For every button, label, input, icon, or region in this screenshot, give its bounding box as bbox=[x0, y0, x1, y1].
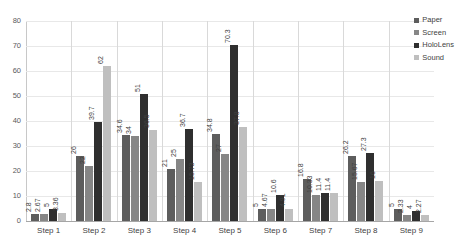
bar[interactable] bbox=[131, 136, 139, 221]
bar[interactable] bbox=[330, 193, 338, 222]
bar[interactable] bbox=[267, 209, 275, 221]
bar-wrapper: 36.7 bbox=[185, 21, 193, 221]
bar-value-label: 51 bbox=[133, 84, 140, 92]
bar[interactable] bbox=[194, 182, 202, 221]
bar-value-label: 10.6 bbox=[269, 179, 276, 193]
y-tick-label: 80 bbox=[0, 17, 21, 25]
bar-wrapper: 16 bbox=[375, 21, 383, 221]
legend-item-sound[interactable]: Sound bbox=[414, 54, 454, 62]
y-tick-label: 0 bbox=[0, 217, 21, 225]
bar-value-label: 62 bbox=[97, 56, 104, 64]
bar[interactable] bbox=[403, 215, 411, 221]
legend-label: Sound bbox=[422, 54, 444, 62]
bar-group: 2.82.6753.36 bbox=[26, 21, 71, 221]
plot-area: 2.82.6753.36262239.76234.6345136.5212536… bbox=[26, 21, 434, 221]
bar-wrapper: 2.33 bbox=[403, 21, 411, 221]
bar-wrapper: 10.6 bbox=[276, 21, 284, 221]
bar[interactable] bbox=[230, 45, 238, 221]
x-tick-label: Step 7 bbox=[298, 226, 343, 236]
bar[interactable] bbox=[221, 154, 229, 222]
x-tick-label: Step 8 bbox=[343, 226, 388, 236]
bar[interactable] bbox=[285, 209, 293, 221]
bar-wrapper: 34 bbox=[131, 21, 139, 221]
bar-value-label: 39.7 bbox=[88, 106, 95, 120]
bar-value-label: 27 bbox=[215, 144, 222, 152]
bar-wrapper: 22 bbox=[85, 21, 93, 221]
bar-wrapper: 26.2 bbox=[348, 21, 356, 221]
legend-item-screen[interactable]: Screen bbox=[414, 29, 454, 37]
legend-swatch-icon bbox=[414, 30, 419, 35]
bar-group: 262239.762 bbox=[71, 21, 116, 221]
bar-wrapper: 62 bbox=[103, 21, 111, 221]
legend-item-hololens[interactable]: HoloLens bbox=[414, 41, 454, 49]
bar[interactable] bbox=[122, 135, 130, 222]
bar-value-label: 34 bbox=[124, 126, 131, 134]
bar[interactable] bbox=[375, 181, 383, 221]
x-tick-label: Step 3 bbox=[117, 226, 162, 236]
bar-value-label: 2.33 bbox=[396, 200, 403, 214]
bar-value-label: 4 bbox=[405, 205, 412, 209]
bar[interactable] bbox=[312, 195, 320, 221]
bar-value-label: 70.3 bbox=[224, 30, 231, 44]
y-tick-label: 60 bbox=[0, 67, 21, 75]
bar-wrapper: 36.5 bbox=[149, 21, 157, 221]
bar-value-label: 36.7 bbox=[179, 114, 186, 128]
x-tick-label: Step 1 bbox=[26, 226, 71, 236]
legend-swatch-icon bbox=[414, 43, 419, 48]
bar[interactable] bbox=[31, 214, 39, 221]
bar-wrapper: 11.4 bbox=[330, 21, 338, 221]
bar-value-label: 36.5 bbox=[142, 114, 149, 128]
x-tick-label: Step 5 bbox=[207, 226, 252, 236]
legend-label: Paper bbox=[422, 16, 442, 24]
bar-value-label: 11.4 bbox=[324, 177, 331, 190]
bar[interactable] bbox=[40, 214, 48, 221]
bar-wrapper: 15.67 bbox=[357, 21, 365, 221]
bar-wrapper: 5 bbox=[49, 21, 57, 221]
bar[interactable] bbox=[149, 130, 157, 221]
y-tick-label: 10 bbox=[0, 192, 21, 200]
y-tick-label: 50 bbox=[0, 92, 21, 100]
bar-value-label: 37.8 bbox=[233, 111, 240, 125]
bar-value-label: 2.8 bbox=[25, 202, 32, 212]
bar-value-label: 5 bbox=[43, 203, 50, 207]
bar-wrapper: 27 bbox=[221, 21, 229, 221]
legend: PaperScreenHoloLensSound bbox=[414, 16, 454, 62]
bar-wrapper: 2.67 bbox=[40, 21, 48, 221]
legend-swatch-icon bbox=[414, 55, 419, 60]
bar-wrapper: 34.6 bbox=[122, 21, 130, 221]
bar-wrapper: 5 bbox=[258, 21, 266, 221]
bar[interactable] bbox=[321, 193, 329, 222]
bar[interactable] bbox=[258, 209, 266, 222]
bar-wrapper: 11.4 bbox=[321, 21, 329, 221]
bar[interactable] bbox=[85, 166, 93, 221]
bar-chart: 80706050403020100 2.82.6753.36262239.762… bbox=[0, 0, 460, 252]
bar[interactable] bbox=[140, 94, 148, 222]
y-tick-label: 20 bbox=[0, 167, 21, 175]
bar-value-label: 15.73 bbox=[188, 162, 195, 180]
bar[interactable] bbox=[103, 66, 111, 221]
bar[interactable] bbox=[239, 127, 247, 222]
bar[interactable] bbox=[176, 159, 184, 222]
bar[interactable] bbox=[94, 122, 102, 221]
bar-value-label: 26 bbox=[70, 146, 77, 154]
bar-wrapper: 39.7 bbox=[94, 21, 102, 221]
bar-value-label: 34.8 bbox=[206, 118, 213, 132]
bar-wrapper: 3.36 bbox=[58, 21, 66, 221]
bar-value-label: 10.33 bbox=[306, 176, 313, 194]
bar-value-label: 2.27 bbox=[414, 200, 421, 214]
bar-group: 212536.715.73 bbox=[162, 21, 207, 221]
bar[interactable] bbox=[366, 153, 374, 221]
bar-value-label: 34.6 bbox=[115, 119, 122, 133]
bar-wrapper: 5 bbox=[394, 21, 402, 221]
bar[interactable] bbox=[58, 213, 66, 221]
bar[interactable] bbox=[167, 169, 175, 222]
legend-swatch-icon bbox=[414, 18, 419, 23]
bar-value-label: 5 bbox=[251, 203, 258, 207]
bar[interactable] bbox=[421, 215, 429, 221]
bar-value-label: 15.67 bbox=[351, 162, 358, 180]
bar[interactable] bbox=[357, 182, 365, 221]
x-tick-label: Step 2 bbox=[71, 226, 116, 236]
legend-item-paper[interactable]: Paper bbox=[414, 16, 454, 24]
bar-value-label: 4.67 bbox=[260, 194, 267, 208]
bar[interactable] bbox=[76, 156, 84, 221]
